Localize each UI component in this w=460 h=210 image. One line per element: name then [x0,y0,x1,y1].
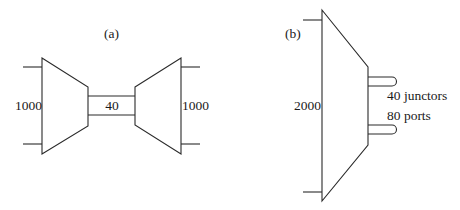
junctor-loop-top [368,77,397,86]
large-switch-trapezoid [322,10,368,201]
large-switch-label: 2000 [294,98,321,113]
switching-network-diagram: (a) 1000 40 1000 (b) 2000 40 junctors 80… [0,0,460,210]
right-switch-trapezoid [135,58,181,154]
panel-b: (b) 2000 40 junctors 80 ports [285,10,447,201]
panel-b-label: (b) [285,26,301,41]
left-switch-label: 1000 [15,98,42,113]
middle-link-label: 40 [105,98,119,113]
junctor-loop-bottom [368,125,397,134]
right-switch-label: 1000 [182,98,209,113]
panel-a-label: (a) [104,26,119,41]
ports-label: 80 ports [387,108,431,123]
junctors-label: 40 junctors [387,88,447,103]
panel-a: (a) 1000 40 1000 [15,26,209,154]
left-switch-trapezoid [42,58,88,154]
